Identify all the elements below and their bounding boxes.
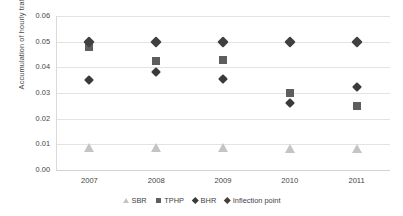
scatter-chart: Accumulation of hourly traffic 0.000.010…	[0, 0, 403, 216]
diamond-marker-icon	[192, 197, 198, 203]
data-point	[218, 143, 228, 152]
y-axis-tick-label: 0.01	[14, 140, 50, 147]
legend-item-bhr: BHR	[193, 196, 216, 205]
x-axis-tick-label: 2011	[335, 176, 379, 185]
x-axis-tick-label: 2010	[268, 176, 312, 185]
data-point	[353, 102, 361, 110]
legend-label: Inflection point	[233, 196, 281, 205]
y-axis-tick-label: 0.02	[14, 115, 50, 122]
y-axis-tick-label: 0.04	[14, 63, 50, 70]
data-point	[219, 56, 227, 64]
data-point	[152, 57, 160, 65]
y-axis-tick-label: 0.03	[14, 89, 50, 96]
data-point	[352, 145, 362, 154]
square-marker-icon	[156, 198, 162, 204]
diamond-marker-icon	[224, 197, 230, 203]
data-point	[285, 145, 295, 154]
legend-item-tphp: TPHP	[156, 196, 184, 205]
x-axis-tick-label: 2008	[134, 176, 178, 185]
data-point	[286, 89, 294, 97]
y-axis-tick-label: 0.00	[14, 166, 50, 173]
y-axis-tick-label: 0.05	[14, 38, 50, 45]
legend-item-inflection-point: Inflection point	[225, 196, 280, 205]
data-point	[84, 143, 94, 152]
x-axis-tick-label: 2009	[201, 176, 245, 185]
legend-item-sbr: SBR	[123, 196, 147, 205]
y-axis-tick-label: 0.06	[14, 12, 50, 19]
legend-label: TPHP	[164, 196, 184, 205]
x-axis-tick-label: 2007	[67, 176, 111, 185]
legend-label: SBR	[132, 196, 147, 205]
legend-label: BHR	[201, 196, 217, 205]
triangle-marker-icon	[123, 198, 129, 203]
data-point	[151, 143, 161, 152]
chart-legend: SBR TPHP BHR Inflection point	[0, 196, 403, 205]
